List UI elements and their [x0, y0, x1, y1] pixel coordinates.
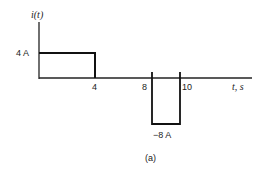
tick-label-8: 8 — [142, 82, 147, 92]
positive-pulse — [39, 53, 95, 78]
x-axis-label: t, s — [232, 82, 244, 92]
waveform-plot — [0, 0, 262, 169]
tick-label-4: 4 — [92, 82, 97, 92]
level-label-neg8A: −8 A — [153, 130, 171, 140]
y-axis-label: i(t) — [31, 10, 43, 20]
level-label-4A: 4 A — [16, 48, 29, 58]
tick-label-10: 10 — [182, 82, 192, 92]
negative-pulse — [152, 72, 180, 124]
figure-caption: (a) — [145, 153, 156, 163]
